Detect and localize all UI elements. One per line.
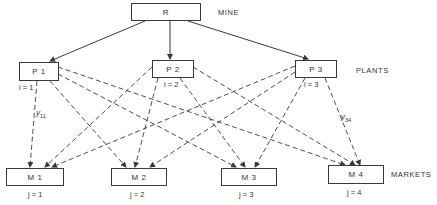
mine-to-plant-edges (50, 21, 308, 61)
market-node-m3: M 3 (221, 168, 277, 186)
plant-label: P 3 (309, 65, 322, 74)
mine-node: R (131, 3, 201, 21)
edge-p1-m4 (58, 67, 345, 165)
flow-label-y34: y34 (341, 112, 351, 123)
edge-p2-m4 (193, 67, 355, 165)
market-index-m3: j = 3 (239, 190, 253, 199)
edge-r-p1 (50, 21, 145, 61)
level-label-mine: MINE (218, 8, 239, 17)
market-node-m4: M 4 (328, 165, 384, 184)
plant-node-p1: P 1 (19, 62, 59, 81)
market-label: M 1 (28, 173, 43, 182)
market-node-m2: M 2 (111, 168, 167, 186)
market-label: M 2 (132, 173, 147, 182)
flow-label-y11: y11 (36, 108, 46, 119)
market-index-m2: j = 2 (130, 190, 144, 199)
plant-index-p3: i = 3 (304, 80, 318, 89)
edge-p1-m1 (30, 81, 37, 167)
edge-p3-m3 (255, 78, 305, 167)
plant-label: P 1 (32, 67, 45, 76)
level-label-plants: PLANTS (356, 66, 389, 75)
plant-node-p2: P 2 (152, 60, 194, 78)
market-index-m4: j = 4 (347, 188, 361, 197)
plant-node-p3: P 3 (295, 60, 337, 78)
market-index-m1: j = 1 (28, 190, 42, 199)
edge-r-p3 (188, 21, 308, 59)
level-label-markets: MARKETS (391, 170, 431, 179)
edge-p2-m3 (180, 78, 245, 167)
market-node-m1: M 1 (6, 168, 64, 186)
market-label: M 4 (349, 170, 364, 179)
market-label: M 3 (242, 173, 257, 182)
mine-label: R (163, 8, 169, 17)
plant-label: P 2 (166, 65, 179, 74)
plant-index-p2: i = 2 (164, 80, 178, 89)
edge-p2-m2 (135, 78, 158, 167)
edge-p1-m2 (50, 81, 126, 167)
edge-p2-m1 (45, 67, 152, 167)
plant-index-p1: i = 1 (19, 83, 33, 92)
